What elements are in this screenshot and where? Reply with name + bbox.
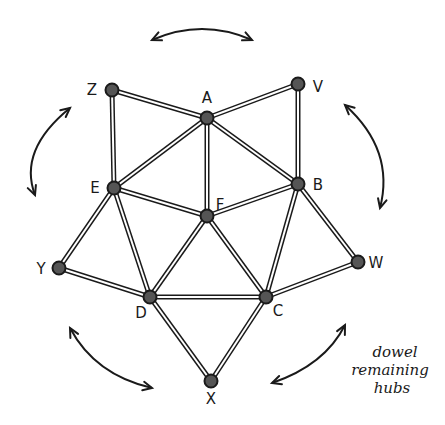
hub-label-A: A — [202, 89, 213, 107]
dowels-layer — [59, 84, 358, 381]
hub-W — [352, 256, 365, 269]
dowel-highlight — [207, 84, 298, 118]
dowel-highlight — [298, 184, 358, 262]
hub-label-E: E — [90, 179, 99, 197]
hub-label-W: W — [369, 254, 384, 272]
rotation-arrow-left — [31, 108, 70, 195]
hub-label-C: C — [273, 302, 283, 320]
rotation-arrow-bottom-right — [272, 325, 345, 383]
hub-X — [205, 375, 218, 388]
hub-label-B: B — [313, 176, 323, 194]
note-line-2: remaining — [351, 361, 429, 379]
dowel-highlight — [114, 188, 150, 297]
hub-label-V: V — [313, 78, 324, 96]
dowel-highlight — [59, 268, 150, 297]
hub-label-X: X — [206, 390, 216, 408]
hub-A — [201, 112, 214, 125]
dowel-highlight — [207, 216, 266, 297]
hub-C — [260, 291, 273, 304]
dowel-highlight — [266, 184, 298, 297]
dowel-highlight — [207, 118, 298, 184]
hub-Z — [106, 84, 119, 97]
dowel-highlight — [59, 188, 114, 268]
rotation-arrow-top — [152, 29, 252, 40]
hub-D — [144, 291, 157, 304]
hub-label-Z: Z — [87, 81, 97, 99]
dowel-highlight — [150, 297, 211, 381]
note-line-3: hubs — [374, 379, 411, 397]
hub-B — [292, 178, 305, 191]
dowel-highlight — [211, 297, 266, 381]
instruction-note: dowel remaining hubs — [351, 343, 429, 397]
hubs-layer — [53, 78, 365, 388]
rotation-arrow-right — [345, 105, 383, 208]
note-line-1: dowel — [372, 343, 417, 361]
hub-label-D: D — [135, 304, 147, 322]
dowel-highlight — [112, 90, 207, 118]
hub-F — [201, 210, 214, 223]
dowel-highlight — [114, 188, 207, 216]
dowel-highlight — [266, 262, 358, 297]
hub-E — [108, 182, 121, 195]
dowel-highlight — [114, 118, 207, 188]
hub-V — [292, 78, 305, 91]
hub-label-F: F — [216, 196, 225, 214]
hub-label-Y: Y — [35, 260, 46, 278]
rotation-arrow-bottom-left — [70, 328, 152, 388]
hub-Y — [53, 262, 66, 275]
dowel-hub-diagram: ZAVEFBYWDCX dowel remaining hubs — [0, 0, 445, 425]
dowel-highlight — [150, 216, 207, 297]
